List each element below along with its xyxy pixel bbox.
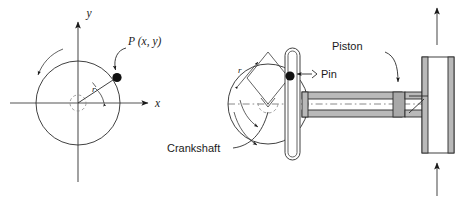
crank-dim-line-b [247,52,268,78]
connecting-rod-upper [302,92,402,99]
crankshaft-label: Crankshaft [167,142,220,154]
right-diagram-group: Crankshaft Pin Piston r [167,8,454,196]
rotation-arrow-outer [234,112,257,145]
point-p-label: P (x, y) [127,35,161,48]
x-axis-label: x [154,97,161,109]
radius-label-right: r [238,65,242,75]
diagram-canvas: y x P (x, y) r [0,0,458,201]
left-diagram-group: y x P (x, y) r [10,7,161,182]
cylinder-column-right-wall [448,57,454,153]
engineering-figure: y x P (x, y) r [0,0,458,201]
radius-label-left: r [92,84,96,94]
point-p-dot [112,73,121,82]
piston-label: Piston [332,40,363,52]
y-axis-label: y [85,7,92,20]
pin-leader-zigzag [312,70,317,78]
pin-dot [285,71,294,80]
piston-block [393,92,405,117]
crank-dim-line-a [247,78,268,104]
radius-line [78,78,116,103]
connecting-rod-lower [302,110,402,117]
point-p-leader [115,48,126,70]
piston-leader [385,52,398,82]
connecting-rod-yoke [302,92,308,117]
crankshaft-leader [233,112,268,148]
crank-slot-capsule [285,48,300,160]
crank-center-vee [261,98,275,107]
crank-center-arc [258,103,278,113]
cylinder-column-left-wall [422,57,428,153]
pin-label: Pin [321,68,337,80]
